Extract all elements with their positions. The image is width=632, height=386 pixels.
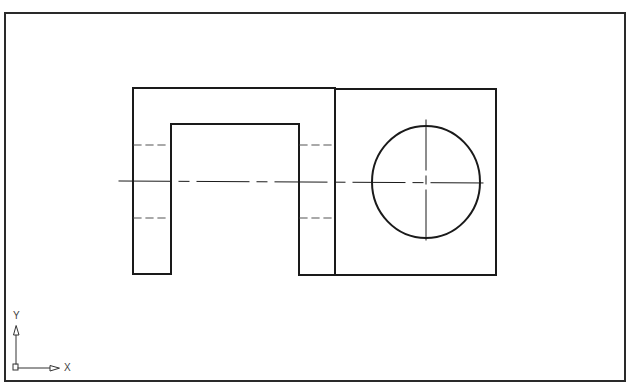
cad-drawing-canvas[interactable] xyxy=(0,0,632,386)
ucs-x-label: X xyxy=(64,362,71,373)
ucs-y-label: Y xyxy=(13,310,20,321)
horizontal-center-line xyxy=(119,181,487,183)
ucs-icon xyxy=(13,326,59,371)
